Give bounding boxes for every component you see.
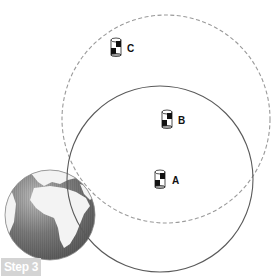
server-a-icon xyxy=(155,170,165,189)
server-c-icon xyxy=(111,38,121,57)
server-b-label: B xyxy=(178,115,185,126)
step-badge: Step 3 xyxy=(1,258,41,276)
server-c-label: C xyxy=(127,43,134,54)
diagram-canvas xyxy=(0,0,275,277)
server-b-icon xyxy=(162,110,172,129)
server-a-label: A xyxy=(172,175,179,186)
trilateration-diagram: C B A Step 3 xyxy=(0,0,275,277)
